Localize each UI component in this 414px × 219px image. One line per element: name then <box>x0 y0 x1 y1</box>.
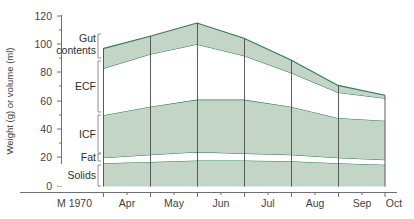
legend-fat-label: Fat <box>81 151 96 163</box>
legend-icf-bracket <box>98 115 101 154</box>
legend-solids: Solids <box>58 164 101 186</box>
y-axis-ticks <box>57 16 62 186</box>
x-label-jun: Jun <box>213 197 230 209</box>
x-label-sep: Sep <box>353 197 372 209</box>
legend-ecf-bracket <box>98 61 101 112</box>
legend-gut-bracket <box>98 34 101 58</box>
x-label-aug: Aug <box>306 197 325 209</box>
y-label-120: 120 <box>34 10 52 22</box>
y-label-60: 60 <box>40 95 52 107</box>
x-label-jul: Jul <box>261 197 274 209</box>
x-label-oct: Oct <box>386 197 402 209</box>
y-axis-tick-labels: 120 100 80 60 40 20 0 <box>34 10 52 192</box>
x-axis-tick-labels: M 1970 Apr May Jun Jul Aug Sep Oct <box>57 197 402 209</box>
chart-canvas: Weight (g) or volume (ml) 120 100 80 60 … <box>0 0 414 219</box>
stacked-area-chart: Weight (g) or volume (ml) 120 100 80 60 … <box>0 0 414 219</box>
legend-gut-label-line2: contents <box>56 44 96 56</box>
legend-gut-label-line1: Gut <box>79 32 96 44</box>
legend-solids-label: Solids <box>67 169 96 181</box>
y-label-20: 20 <box>40 151 52 163</box>
legend-ecf-label: ECF <box>75 80 96 92</box>
legend-icf: ICF <box>63 114 101 154</box>
x-label-apr: Apr <box>119 197 136 209</box>
legend-gut-contents: Gut contents <box>56 32 101 59</box>
x-axis-ticks <box>104 193 386 198</box>
y-axis-title: Weight (g) or volume (ml) <box>4 48 15 155</box>
legend-fat: Fat <box>63 151 101 163</box>
y-label-40: 40 <box>40 123 52 135</box>
band-group-solids <box>103 161 385 187</box>
solids-band-fill <box>103 161 385 187</box>
x-label-may: May <box>164 197 185 209</box>
legend-icf-label: ICF <box>79 128 96 140</box>
y-label-80: 80 <box>40 66 52 78</box>
x-label-mar: M 1970 <box>57 197 92 209</box>
y-label-100: 100 <box>34 38 52 50</box>
y-label-0: 0 <box>46 180 52 192</box>
legend-ecf: ECF <box>63 60 101 112</box>
legend-solids-bracket <box>98 165 101 186</box>
